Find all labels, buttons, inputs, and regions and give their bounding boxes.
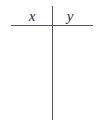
- column-header-x: x: [22, 8, 42, 24]
- column-header-y: y: [60, 8, 80, 24]
- t-table: x y: [0, 0, 98, 121]
- column-divider-line: [52, 6, 53, 120]
